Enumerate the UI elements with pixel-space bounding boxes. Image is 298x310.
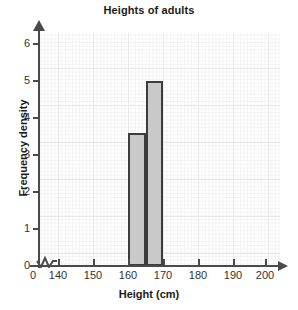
x-tick-mark <box>58 259 60 266</box>
y-tick-mark <box>33 154 39 156</box>
x-axis-title: Height (cm) <box>0 288 298 300</box>
x-tick-mark <box>128 259 130 266</box>
y-tick-mark <box>33 228 39 230</box>
y-tick-mark <box>33 80 39 82</box>
x-tick-label: 170 <box>143 269 183 281</box>
y-tick-mark <box>33 43 39 45</box>
x-axis-line <box>30 265 279 267</box>
plot-area <box>40 33 280 266</box>
x-tick-label: 200 <box>245 269 285 281</box>
x-tick-mark <box>93 259 95 266</box>
x-tick-label-origin: 0 <box>13 269 53 281</box>
y-axis-title: Frequency density <box>17 48 29 248</box>
y-axis-line <box>38 28 40 268</box>
histogram-chart: Heights of adults 6 5 4 3 2 1 0 140 150 … <box>0 0 298 310</box>
x-tick-mark <box>163 259 165 266</box>
x-tick-mark <box>233 259 235 266</box>
histogram-bar-165-170 <box>146 81 164 266</box>
x-tick-label: 180 <box>178 269 218 281</box>
y-tick-mark <box>33 117 39 119</box>
y-tick-mark <box>33 191 39 193</box>
x-tick-label: 150 <box>73 269 113 281</box>
axis-break-zigzag-icon <box>36 256 58 268</box>
chart-title: Heights of adults <box>0 4 298 16</box>
histogram-bar-160-165 <box>128 133 146 266</box>
x-tick-mark <box>265 259 267 266</box>
y-axis-arrow-icon <box>33 20 45 31</box>
x-tick-label: 160 <box>108 269 148 281</box>
x-tick-mark <box>198 259 200 266</box>
